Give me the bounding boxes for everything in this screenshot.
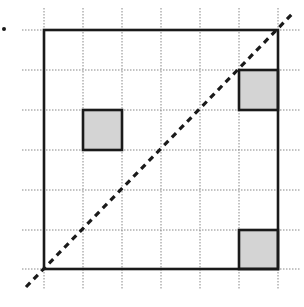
shaded-square-left [83, 110, 122, 150]
marker-dot [2, 27, 6, 31]
shaded-square-bottom-right [239, 230, 278, 269]
shaded-square-top-right [239, 70, 278, 110]
grid-diagram [0, 0, 304, 307]
shaded-cells [83, 70, 278, 269]
